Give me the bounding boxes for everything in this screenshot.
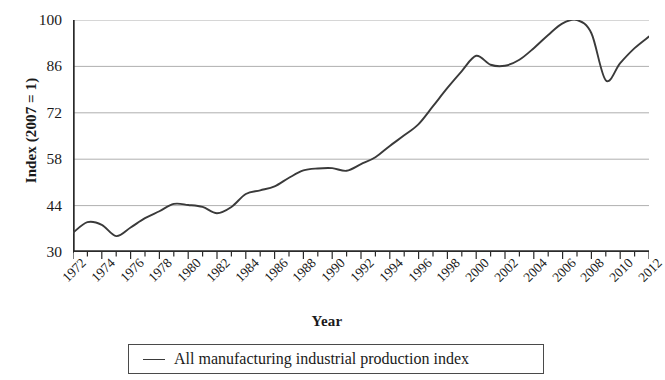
line-chart-svg: [73, 20, 649, 262]
y-axis-tick-label: 30: [0, 244, 62, 260]
chart-legend: All manufacturing industrial production …: [128, 344, 544, 374]
series-line-all-manufacturing: [73, 20, 649, 236]
x-axis-tick-label: 1972: [60, 256, 89, 285]
axis-ticks: [73, 20, 649, 259]
axis-lines: [73, 20, 649, 252]
legend-line-marker: [143, 359, 165, 360]
x-axis-title: Year: [0, 313, 654, 330]
y-axis-tick-label: 86: [0, 58, 62, 74]
y-axis-tick-label: 100: [0, 12, 62, 28]
gridlines: [73, 20, 649, 206]
y-axis-tick-label: 58: [0, 151, 62, 167]
y-axis-tick-label: 72: [0, 105, 62, 121]
legend-label: All manufacturing industrial production …: [174, 351, 469, 367]
plot-area: [73, 20, 649, 252]
y-axis-tick-label: 44: [0, 198, 62, 214]
